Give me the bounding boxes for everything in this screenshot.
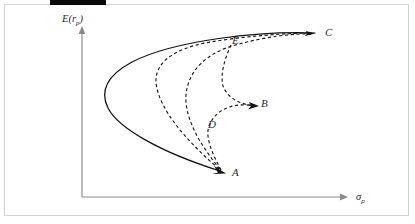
point-label-a: A [231,166,239,178]
y-axis-label-close: ) [79,13,84,25]
curve-dashed-a-to-c-inner [186,34,312,169]
y-axis-arrowhead [79,26,86,34]
x-axis-label-sub: p [360,197,365,205]
curve-dashed-e-to-b [222,45,256,106]
point-label-c: C [325,26,333,38]
frontier-curves-group [105,33,315,171]
point-label-d: D [207,118,216,130]
figure-root: A B C D E E(rp) σp [0,0,415,224]
curve-dashed-a-to-c-outer [156,33,312,169]
portfolio-frontier-plot: A B C D E E(rp) σp [0,0,415,224]
point-label-e: E [231,34,239,46]
y-axis-label: E(rp) [61,13,84,27]
x-axis-label: σp [356,191,365,205]
point-label-b: B [261,97,268,109]
x-axis-arrowhead [340,194,348,201]
curve-efficient-frontier-envelope [105,33,315,171]
curve-dashed-a-to-b [208,105,256,170]
